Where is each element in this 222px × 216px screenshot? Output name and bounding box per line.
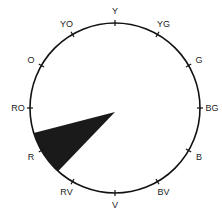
red-hue-wedge (34, 112, 115, 171)
hue-ticks (27, 20, 203, 196)
hue-label-rv: RV (60, 187, 72, 197)
hue-label-yo: YO (60, 19, 73, 29)
hue-label-g: G (195, 55, 202, 65)
hue-label-r: R (28, 152, 35, 162)
hue-label-o: O (27, 55, 34, 65)
hue-label-v: V (112, 200, 118, 210)
hue-label-bg: BG (205, 103, 218, 113)
hue-labels: YYGGBGBBVVRVRROOYO (11, 6, 218, 210)
hue-label-yg: YG (157, 19, 170, 29)
hue-label-bv: BV (157, 187, 169, 197)
hue-label-ro: RO (11, 103, 25, 113)
color-wheel-diagram: YYGGBGBBVVRVRROOYO (0, 0, 222, 216)
hue-label-y: Y (112, 6, 118, 16)
hue-label-b: B (196, 152, 202, 162)
